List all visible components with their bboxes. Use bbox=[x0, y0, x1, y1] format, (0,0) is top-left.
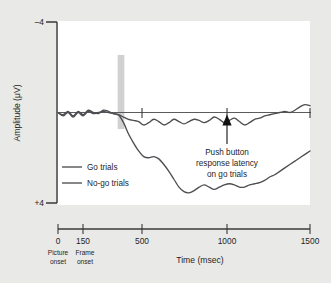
x-axis-tick-label-1000: 1000 bbox=[218, 236, 237, 246]
erp-figure: –4 +4 Amplitude (μV) Go trials No-go tri… bbox=[0, 0, 331, 283]
y-axis-top-label: –4 bbox=[35, 17, 45, 27]
legend-label-go-trials: Go trials bbox=[87, 163, 117, 172]
x-axis-sublabel-frame-onset-line2: onset bbox=[77, 258, 93, 265]
x-axis-sublabel-frame-onset-line1: Frame bbox=[75, 249, 94, 256]
x-axis-tick-label-0: 0 bbox=[56, 236, 61, 246]
annotation-line-1: Push button bbox=[205, 148, 249, 157]
y-axis-title: Amplitude (μV) bbox=[12, 84, 22, 141]
erp-chart-svg: –4 +4 Amplitude (μV) Go trials No-go tri… bbox=[0, 0, 331, 283]
legend-label-no-go-trials: No-go trials bbox=[87, 179, 129, 188]
y-axis-bottom-label: +4 bbox=[34, 198, 44, 208]
annotation-line-2: response latency bbox=[196, 159, 259, 168]
annotation-line-3: on go trials bbox=[207, 170, 247, 179]
x-axis-sublabel-picture-onset-line2: onset bbox=[50, 258, 66, 265]
x-axis-tick-label-1500: 1500 bbox=[301, 236, 320, 246]
x-axis-title: Time (msec) bbox=[176, 255, 224, 265]
x-axis-tick-label-500: 500 bbox=[135, 236, 149, 246]
x-axis-sublabel-picture-onset-line1: Picture bbox=[48, 249, 69, 256]
x-axis-tick-label-150: 150 bbox=[76, 236, 90, 246]
